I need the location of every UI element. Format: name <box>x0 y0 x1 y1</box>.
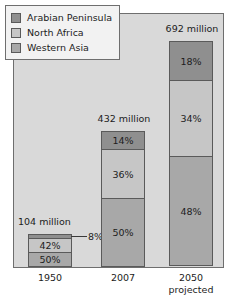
tick-label: 1950 <box>38 272 62 283</box>
segment-value-label: 18% <box>180 56 201 67</box>
x-axis-tick-2007: 2007 <box>95 272 151 284</box>
bar-1950[interactable]: 8% 42% 50% <box>28 234 72 268</box>
tick-label: 2007 <box>111 272 135 283</box>
bar-segment-north-africa-2050[interactable]: 34% <box>169 80 213 157</box>
legend-swatch-icon <box>11 13 21 23</box>
bar-segment-western-asia-1950[interactable]: 50% <box>28 252 72 267</box>
legend-swatch-icon <box>11 43 21 53</box>
segment-value-label: 34% <box>180 113 201 124</box>
segment-value-label: 42% <box>39 240 60 251</box>
bar-total-label-2050: 692 million <box>159 23 225 34</box>
segment-value-label: 50% <box>112 227 133 238</box>
legend-label: North Africa <box>27 27 84 38</box>
tick-label: 2050 <box>179 272 203 283</box>
x-axis-tick-2050: 2050 projected <box>163 272 219 296</box>
bar-segment-arabian-peninsula-2050[interactable]: 18% <box>169 41 213 81</box>
legend-label: Western Asia <box>27 42 89 53</box>
bar-segment-western-asia-2007[interactable]: 50% <box>101 198 145 267</box>
x-axis-tick-1950: 1950 <box>22 272 78 284</box>
legend-item-north-africa[interactable]: North Africa <box>11 25 112 40</box>
stacked-bar-chart: 104 million 8% 42% 50% 8% 432 million 14… <box>0 0 235 304</box>
bar-total-label-2007: 432 million <box>93 113 155 124</box>
segment-value-label: 14% <box>112 135 133 146</box>
bar-2050[interactable]: 18% 34% 48% <box>169 41 213 268</box>
bar-segment-north-africa-1950[interactable]: 42% <box>28 238 72 253</box>
bar-segment-western-asia-2050[interactable]: 48% <box>169 156 213 266</box>
tick-sublabel: projected <box>169 284 214 295</box>
segment-value-label: 50% <box>39 254 60 265</box>
bar-2007[interactable]: 14% 36% 50% <box>101 131 145 268</box>
segment-value-label: 36% <box>112 169 133 180</box>
callout-leader-line <box>71 236 87 237</box>
bar-total-label-1950: 104 million <box>18 216 88 227</box>
legend-swatch-icon <box>11 28 21 38</box>
legend-item-arabian-peninsula[interactable]: Arabian Peninsula <box>11 10 112 25</box>
chart-legend: Arabian Peninsula North Africa Western A… <box>5 5 120 60</box>
legend-item-western-asia[interactable]: Western Asia <box>11 40 112 55</box>
bar-segment-arabian-peninsula-2007[interactable]: 14% <box>101 131 145 150</box>
legend-label: Arabian Peninsula <box>27 12 112 23</box>
bar-segment-north-africa-2007[interactable]: 36% <box>101 149 145 199</box>
segment-value-label: 48% <box>180 206 201 217</box>
